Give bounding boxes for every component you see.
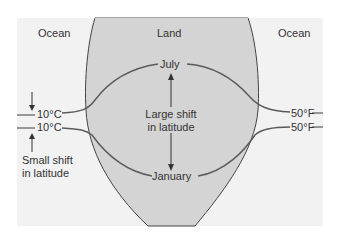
right-top-temp: 50°F xyxy=(291,107,314,120)
right-bottom-temp: 50°F xyxy=(291,121,314,134)
land-label: Land xyxy=(157,27,181,40)
small-shift-label: Small shift in latitude xyxy=(22,154,73,180)
ocean-left-label: Ocean xyxy=(38,27,70,40)
ocean-right-label: Ocean xyxy=(278,27,310,40)
left-top-temp: 10°C xyxy=(37,108,62,121)
january-label: January xyxy=(152,170,191,183)
left-bottom-temp: 10°C xyxy=(37,121,62,134)
july-label: July xyxy=(160,58,180,71)
large-shift-label: Large shift in latitude xyxy=(140,108,202,134)
